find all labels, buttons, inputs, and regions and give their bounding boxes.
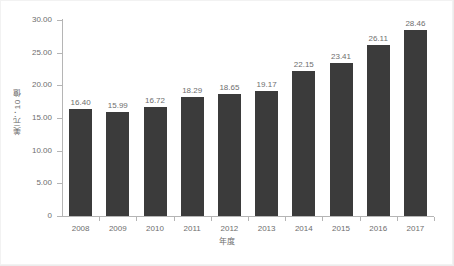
bar-value-label: 16.72 <box>132 96 178 105</box>
y-axis-tick-label: 30.00 <box>8 16 52 24</box>
x-axis-tick-label: 2008 <box>61 224 101 233</box>
x-axis-tick-label: 2010 <box>135 224 175 233</box>
x-axis-tick <box>99 217 100 221</box>
y-axis-tick-label: 5.00 <box>8 179 52 187</box>
x-axis-tick <box>397 217 398 221</box>
x-axis-tick-label: 2011 <box>172 224 212 233</box>
bar <box>218 94 241 216</box>
y-axis-title: 美元：10 億 <box>12 88 26 135</box>
x-axis-tick <box>285 217 286 221</box>
plot-area <box>62 20 434 216</box>
bar-value-label: 28.46 <box>392 19 438 28</box>
x-axis-tick-label: 2012 <box>209 224 249 233</box>
x-axis-tick-label: 2014 <box>284 224 324 233</box>
x-axis-tick <box>211 217 212 221</box>
x-axis-tick-label: 2013 <box>247 224 287 233</box>
x-axis-tick-label: 2016 <box>358 224 398 233</box>
y-axis-tick-label: 10.00 <box>8 147 52 155</box>
x-axis-tick <box>360 217 361 221</box>
y-axis-tick-label: 25.00 <box>8 49 52 57</box>
bar-value-label: 19.17 <box>244 80 290 89</box>
x-axis-tick <box>136 217 137 221</box>
y-axis-tick-label: 0 <box>8 212 52 220</box>
bar <box>404 30 427 216</box>
bar-value-label: 23.41 <box>318 52 364 61</box>
bar-value-label: 26.11 <box>355 34 401 43</box>
bar <box>255 91 278 216</box>
bar <box>181 97 204 216</box>
x-axis-tick <box>248 217 249 221</box>
bar <box>69 109 92 216</box>
bar <box>367 45 390 216</box>
bar <box>144 107 167 216</box>
bar-value-label: 22.15 <box>281 60 327 69</box>
x-axis-tick <box>174 217 175 221</box>
x-axis-tick <box>322 217 323 221</box>
x-axis-title: 年度 <box>0 235 454 246</box>
x-axis-tick-label: 2017 <box>395 224 435 233</box>
bar <box>330 63 353 216</box>
bar-chart: 05.0010.0015.0020.0025.0030.00 200820092… <box>0 0 454 266</box>
x-axis-tick <box>434 217 435 221</box>
bar <box>106 112 129 216</box>
x-axis-tick-label: 2015 <box>321 224 361 233</box>
bar <box>292 71 315 216</box>
x-axis-tick-label: 2009 <box>98 224 138 233</box>
